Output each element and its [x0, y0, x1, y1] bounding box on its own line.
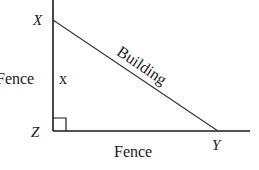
right-angle-marker [53, 118, 66, 131]
vertex-label-z: Z [31, 124, 40, 140]
side-label-variable-x: x [59, 70, 67, 87]
triangle-diagram: X Z Y Fence x Fence Building [0, 0, 259, 170]
side-label-bottom-fence: Fence [114, 143, 152, 160]
side-xy [53, 20, 218, 131]
vertex-label-y: Y [212, 137, 222, 153]
side-label-left-fence: Fence [0, 70, 34, 87]
vertex-label-x: X [32, 12, 43, 28]
